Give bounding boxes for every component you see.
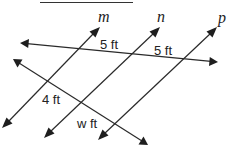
segment-label-bottom-left: 4 ft — [42, 92, 60, 107]
segment-label-bottom-right: w ft — [76, 116, 98, 131]
bottom-transversal — [13, 59, 148, 145]
parallel-lines-diagram: m n p 5 ft 5 ft 4 ft w ft — [0, 0, 236, 156]
line-m — [2, 27, 100, 128]
segment-label-top-right: 5 ft — [154, 43, 172, 58]
label-m: m — [98, 8, 110, 25]
arrowhead-icon — [13, 59, 23, 68]
label-n: n — [157, 8, 165, 25]
arrowhead-icon — [209, 57, 218, 66]
segment-label-top-left: 5 ft — [100, 37, 118, 52]
top-transversal — [20, 39, 218, 66]
label-p: p — [217, 9, 226, 27]
arrowhead-icon — [139, 137, 149, 146]
arrowhead-icon — [20, 39, 29, 48]
